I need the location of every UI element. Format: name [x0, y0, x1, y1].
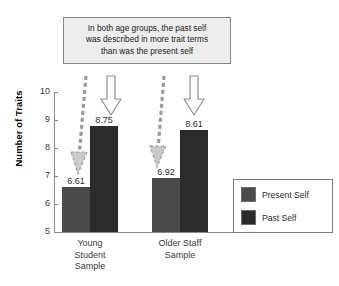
y-tick-10	[54, 92, 58, 93]
bar-value-older-past-self: 8.61	[177, 119, 211, 129]
legend-swatch-past-self	[241, 210, 256, 225]
category-label-young-line-2: Student	[47, 250, 133, 262]
annotation-line-1: In both age groups, the past self	[68, 23, 226, 34]
y-axis-line	[54, 92, 55, 233]
annotation-line-3: than was the present self	[68, 46, 226, 57]
y-tick-5	[54, 232, 58, 233]
dashed-arrow-older-present-icon	[150, 76, 166, 167]
category-label-older-line-2: Sample	[137, 250, 223, 262]
outline-arrow-older-past-icon	[184, 76, 204, 115]
y-tick-9	[54, 120, 58, 121]
bar-older-past-self	[180, 130, 208, 232]
y-tick-7	[54, 176, 58, 177]
annotation-callout-box: In both age groups, the past self was de…	[63, 17, 231, 64]
bar-young-past-self	[90, 126, 118, 232]
bar-value-young-present-self: 6.61	[59, 176, 93, 186]
bar-older-present-self	[152, 178, 180, 232]
y-tick-6	[54, 204, 58, 205]
category-label-older-staff-sample: Older Staff Sample	[137, 238, 223, 261]
category-label-older-line-1: Older Staff	[137, 238, 223, 250]
category-label-young-student-sample: Young Student Sample	[47, 238, 133, 273]
y-tick-label-6: 6	[30, 198, 50, 208]
category-label-young-line-3: Sample	[47, 261, 133, 273]
y-tick-label-7: 7	[30, 170, 50, 180]
y-tick-label-8: 8	[30, 142, 50, 152]
legend-item-present-self: Present Self	[241, 187, 309, 202]
legend-label-present-self: Present Self	[262, 190, 309, 200]
x-axis-line	[54, 232, 243, 233]
y-tick-label-10: 10	[30, 86, 50, 96]
y-tick-8	[54, 148, 58, 149]
legend-label-past-self: Past Self	[262, 213, 296, 223]
y-axis-title: Number of Traits	[13, 69, 24, 189]
legend-swatch-present-self	[241, 187, 256, 202]
bar-value-young-past-self: 8.75	[87, 115, 121, 125]
bar-chart-figure: In both age groups, the past self was de…	[0, 0, 339, 286]
outline-arrow-young-past-icon	[101, 76, 121, 115]
bar-young-present-self	[62, 187, 90, 232]
category-label-young-line-1: Young	[47, 238, 133, 250]
y-tick-label-9: 9	[30, 114, 50, 124]
chart-legend: Present Self Past Self	[233, 179, 333, 233]
dashed-arrow-young-present-icon	[71, 76, 87, 174]
bar-value-older-present-self: 6.92	[149, 167, 183, 177]
annotation-line-2: was described in more trait terms	[68, 34, 226, 45]
y-tick-label-5: 5	[30, 226, 50, 236]
legend-item-past-self: Past Self	[241, 210, 296, 225]
